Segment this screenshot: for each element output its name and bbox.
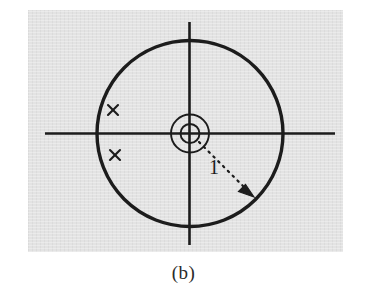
zero-marker-icon-lower (110, 150, 120, 160)
radius-arrow-line (199, 142, 248, 191)
radius-arrowhead-icon (239, 185, 255, 198)
figure-root: 1 (b) (0, 0, 367, 300)
radius-value-label: 1 (209, 156, 219, 179)
zero-marker-icon-upper (108, 105, 118, 115)
figure-caption: (b) (0, 262, 367, 284)
pole-zero-plot (0, 0, 367, 300)
